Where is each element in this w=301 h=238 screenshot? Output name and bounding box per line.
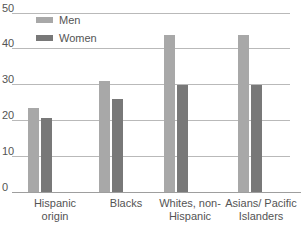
bar-men-whites-non-hispanic — [164, 35, 175, 193]
bar-chart: 50 40 30 20 10 0 Men Women Hispanic orig… — [0, 0, 301, 238]
bar-men-asians-pacific-islanders — [238, 35, 249, 193]
x-label-hispanic-origin: Hispanic origin — [15, 197, 95, 222]
bar-men-blacks — [99, 81, 110, 192]
x-label-asians-pacific-islanders: Asians/ Pacific Islanders — [219, 197, 301, 222]
bar-women-hispanic-origin — [41, 118, 52, 192]
bar-men-hispanic-origin — [28, 108, 39, 192]
bar-women-asians-pacific-islanders — [251, 85, 262, 192]
bar-women-blacks — [112, 99, 123, 192]
bar-women-whites-non-hispanic — [177, 85, 188, 192]
